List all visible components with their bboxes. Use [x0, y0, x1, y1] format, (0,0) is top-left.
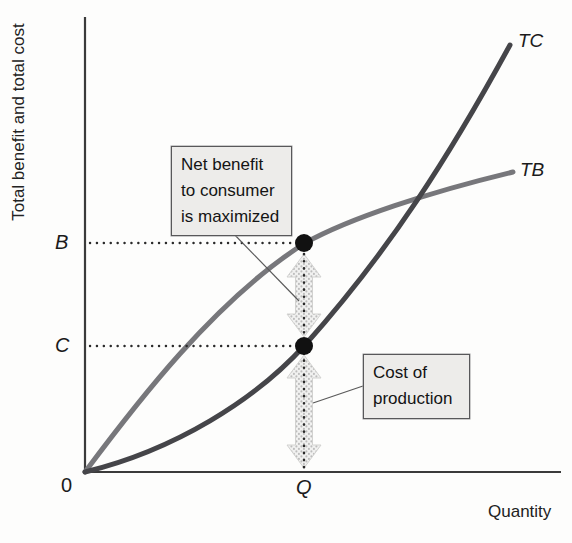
chart-canvas: [0, 0, 572, 543]
tc-at-q-dot: [295, 337, 313, 355]
b-tick-label: B: [55, 231, 68, 254]
q-tick-label: Q: [296, 476, 312, 499]
tc-curve-label: TC: [518, 30, 543, 52]
c-tick-label: C: [55, 334, 69, 357]
x-axis-title: Quantity: [488, 502, 564, 522]
total-benefit-total-cost-figure: Total benefit and total cost Quantity 0 …: [0, 0, 572, 543]
tb-curve-label: TB: [520, 159, 544, 181]
cost-of-production-callout-box: Cost of production: [363, 354, 470, 419]
y-axis-title: Total benefit and total cost: [9, 17, 29, 227]
tb-at-q-dot: [295, 234, 313, 252]
cost-callout-line: [313, 386, 363, 403]
origin-tick-label: 0: [61, 474, 72, 497]
net-benefit-callout-box: Net benefit to consumer is maximized: [171, 146, 292, 236]
